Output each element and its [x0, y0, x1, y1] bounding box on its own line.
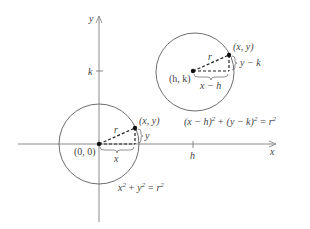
shifted-point-label: (x, y) — [233, 41, 254, 53]
origin-radius-label: r — [114, 124, 118, 135]
x-axis-label: x — [269, 146, 275, 157]
diagram-canvas: y x k h r (0, 0) (x, y) x y x2+ y2= r2 r… — [0, 0, 310, 229]
shifted-circle — [156, 33, 234, 111]
origin-center-point — [97, 142, 101, 146]
shifted-equation: (x − h)2+ (y − k)2= r2 — [184, 115, 277, 128]
origin-x-label: x — [113, 153, 119, 164]
shifted-radius-label: r — [208, 51, 212, 62]
shifted-y-label: y − k — [239, 57, 261, 68]
origin-center-label: (0, 0) — [74, 146, 96, 158]
k-tick-label: k — [88, 66, 93, 77]
shifted-center-point — [191, 69, 195, 73]
shifted-circle-point — [227, 53, 231, 57]
origin-equation: x2+ y2= r2 — [117, 181, 164, 193]
y-axis-label: y — [88, 13, 94, 24]
h-tick-label: h — [190, 150, 195, 161]
origin-y-label: y — [144, 130, 150, 141]
shifted-x-label: x − h — [199, 80, 221, 91]
origin-point-label: (x, y) — [139, 115, 160, 127]
origin-circle-point — [133, 126, 137, 130]
shifted-center-label: (h, k) — [169, 73, 191, 85]
